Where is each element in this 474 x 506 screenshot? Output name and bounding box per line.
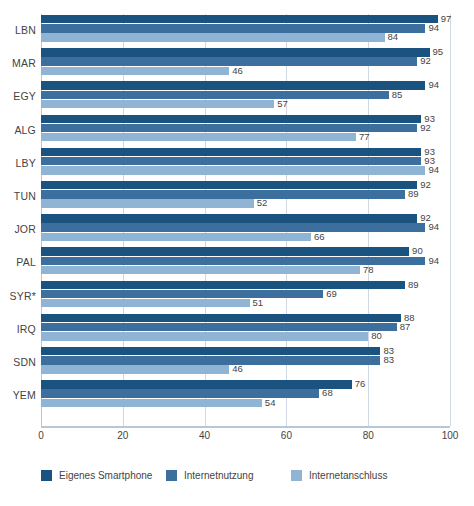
bar-egy-s0 [41, 81, 425, 89]
bar-lbn-s1 [41, 24, 425, 32]
x-tick-20: 20 [117, 430, 128, 441]
bars-container: 929466 [41, 214, 450, 245]
bar-value-label: 68 [322, 389, 333, 397]
category-label-yem: YEM [0, 379, 36, 412]
bars-container: 766854 [41, 380, 450, 411]
legend-label: Eigenes Smartphone [59, 470, 152, 481]
category-label-lby: LBY [0, 147, 36, 180]
bars-container: 909478 [41, 247, 450, 278]
legend-swatch-icon [41, 470, 52, 481]
x-axis-line [41, 426, 450, 428]
bar-tun-s1 [41, 190, 405, 198]
category-label-sdn: SDN [0, 346, 36, 379]
bar-group: EGY948557 [0, 80, 474, 113]
bar-group: JOR929466 [0, 213, 474, 246]
bar-value-label: 54 [265, 399, 276, 407]
bar-value-label: 76 [355, 380, 366, 388]
bar-mar-s2 [41, 67, 229, 75]
bar-value-label: 97 [441, 15, 452, 23]
bar-value-label: 94 [428, 81, 439, 89]
bar-group: PAL909478 [0, 246, 474, 279]
bar-jor-s1 [41, 223, 425, 231]
bar-group: LBN979484 [0, 14, 474, 47]
legend-label: Internetnutzung [184, 470, 254, 481]
bar-value-label: 89 [408, 190, 419, 198]
bar-group: SDN838346 [0, 346, 474, 379]
bar-group: TUN928952 [0, 180, 474, 213]
bar-tun-s0 [41, 181, 417, 189]
bar-value-label: 69 [326, 290, 337, 298]
bar-pal-s2 [41, 266, 360, 274]
bar-irq-s2 [41, 332, 368, 340]
bar-yem-s1 [41, 389, 319, 397]
bar-mar-s0 [41, 48, 430, 56]
bar-group: IRQ888780 [0, 313, 474, 346]
legend-item-2[interactable]: Internetanschluss [291, 470, 387, 481]
bar-alg-s0 [41, 115, 421, 123]
bar-group: SYR*896951 [0, 280, 474, 313]
bar-value-label: 94 [428, 257, 439, 265]
bar-syr-s2 [41, 299, 250, 307]
category-label-lbn: LBN [0, 14, 36, 47]
category-label-irq: IRQ [0, 313, 36, 346]
chart-title-cropped [41, 0, 341, 4]
bar-egy-s1 [41, 91, 389, 99]
bar-value-label: 92 [420, 57, 431, 65]
category-label-egy: EGY [0, 80, 36, 113]
bar-syr-s1 [41, 290, 323, 298]
bar-pal-s0 [41, 247, 409, 255]
bar-lbn-s2 [41, 33, 385, 41]
bar-value-label: 94 [428, 166, 439, 174]
bars-container: 979484 [41, 15, 450, 46]
bar-tun-s2 [41, 199, 254, 207]
bars-container: 939277 [41, 115, 450, 146]
bar-alg-s2 [41, 133, 356, 141]
bar-group: YEM766854 [0, 379, 474, 412]
bars-container: 948557 [41, 81, 450, 112]
bar-value-label: 51 [253, 299, 264, 307]
legend-swatch-icon [166, 470, 177, 481]
bar-irq-s0 [41, 314, 401, 322]
x-tick-80: 80 [363, 430, 374, 441]
bar-egy-s2 [41, 100, 274, 108]
bar-value-label: 90 [412, 247, 423, 255]
bar-irq-s1 [41, 323, 397, 331]
category-label-syr: SYR* [0, 280, 36, 313]
legend-item-0[interactable]: Eigenes Smartphone [41, 470, 152, 481]
bar-value-label: 46 [232, 67, 243, 75]
x-tick-60: 60 [281, 430, 292, 441]
bar-value-label: 77 [359, 133, 370, 141]
category-label-jor: JOR [0, 213, 36, 246]
bar-lby-s1 [41, 157, 421, 165]
bar-mar-s1 [41, 57, 417, 65]
bar-value-label: 94 [428, 24, 439, 32]
bar-value-label: 94 [428, 223, 439, 231]
bar-group: ALG939277 [0, 114, 474, 147]
bar-syr-s0 [41, 281, 405, 289]
bar-value-label: 57 [277, 100, 288, 108]
bar-value-label: 92 [420, 181, 431, 189]
bar-value-label: 92 [420, 124, 431, 132]
bar-yem-s0 [41, 380, 352, 388]
bar-value-label: 87 [400, 323, 411, 331]
bar-value-label: 46 [232, 365, 243, 373]
bars-container: 959246 [41, 48, 450, 79]
category-label-tun: TUN [0, 180, 36, 213]
category-label-pal: PAL [0, 246, 36, 279]
legend-label: Internetanschluss [309, 470, 387, 481]
x-tick-40: 40 [199, 430, 210, 441]
bar-value-label: 83 [383, 356, 394, 364]
bars-container: 928952 [41, 181, 450, 212]
bar-value-label: 80 [371, 332, 382, 340]
category-label-alg: ALG [0, 114, 36, 147]
bar-lby-s0 [41, 148, 421, 156]
bar-group: MAR959246 [0, 47, 474, 80]
bar-value-label: 66 [314, 233, 325, 241]
bars-container: 939394 [41, 148, 450, 179]
bars-container: 838346 [41, 347, 450, 378]
bar-value-label: 89 [408, 281, 419, 289]
legend-item-1[interactable]: Internetnutzung [166, 470, 254, 481]
bar-jor-s2 [41, 233, 311, 241]
bar-yem-s2 [41, 399, 262, 407]
legend-swatch-icon [291, 470, 302, 481]
